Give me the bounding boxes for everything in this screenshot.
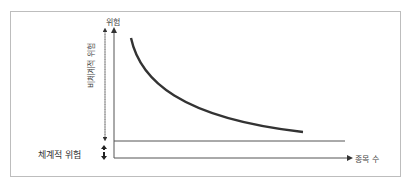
- systematic-down-arrow-icon: [101, 156, 107, 160]
- risk-curve: [131, 38, 303, 132]
- x-axis-label: 종목 수: [355, 153, 379, 164]
- risk-diversification-diagram: [0, 0, 409, 190]
- unsystematic-risk-label: 비체계적 위험: [85, 43, 96, 88]
- y-axis-label: 위험: [106, 16, 120, 27]
- systematic-up-arrow-icon: [101, 145, 107, 149]
- systematic-risk-label: 체계적 위험: [38, 148, 81, 161]
